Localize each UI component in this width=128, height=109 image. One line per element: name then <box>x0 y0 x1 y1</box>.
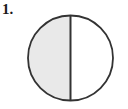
figure-container: 1. <box>0 0 128 109</box>
circle-right-half-region <box>71 16 114 101</box>
circle-diagram <box>0 0 128 109</box>
circle-left-half-shaded-region <box>28 16 70 101</box>
